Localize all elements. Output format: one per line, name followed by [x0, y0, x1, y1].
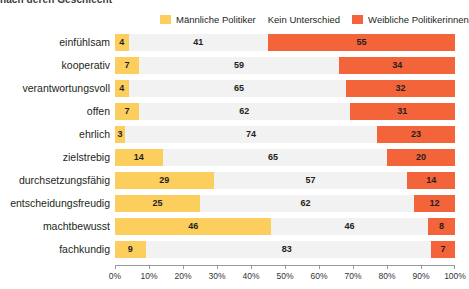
category-label: verantwortungsvoll	[22, 77, 115, 100]
bar-value-label: 9	[128, 245, 133, 254]
bar-segment-weibliche-politikerinnen: 8	[428, 218, 455, 235]
chart-legend: Männliche Politiker Kein Unterschied Wei…	[160, 13, 469, 26]
bar-value-label: 31	[397, 107, 407, 116]
bar-segment-maennliche-politiker: 25	[115, 195, 200, 212]
category-label: entscheidungsfreudig	[10, 192, 115, 215]
axis-tick	[149, 265, 150, 269]
axis-tick-label: 20%	[174, 271, 191, 281]
bar-value-label: 65	[268, 153, 278, 162]
bar-segment-kein-unterschied: 41	[129, 34, 268, 51]
bar-segment-kein-unterschied: 83	[146, 241, 428, 258]
bar-value-label: 20	[416, 153, 426, 162]
category-label: zielstrebig	[63, 146, 115, 169]
bar-value-label: 29	[159, 176, 169, 185]
bar-track: 46468	[115, 218, 455, 235]
chart-row: ehrlich37423	[0, 123, 467, 146]
page-title: nach deren Geschlecht	[0, 0, 220, 4]
bar-value-label: 41	[193, 38, 203, 47]
chart-plot-area: einfühlsam44155kooperativ75934verantwort…	[0, 31, 467, 265]
bar-value-label: 34	[392, 61, 402, 70]
bar-segment-weibliche-politikerinnen: 32	[346, 80, 455, 97]
bar-segment-kein-unterschied: 46	[271, 218, 427, 235]
bar-track: 37423	[115, 126, 455, 143]
bar-value-label: 7	[441, 245, 446, 254]
bar-segment-kein-unterschied: 57	[214, 172, 408, 189]
bar-track: 256212	[115, 195, 455, 212]
chart-row: offen76231	[0, 100, 467, 123]
category-label: einfühlsam	[59, 31, 115, 54]
bar-segment-kein-unterschied: 59	[139, 57, 340, 74]
bar-value-label: 7	[124, 61, 129, 70]
bar-segment-maennliche-politiker: 4	[115, 80, 129, 97]
axis-tick	[285, 265, 286, 269]
bar-segment-kein-unterschied: 62	[200, 195, 411, 212]
axis-tick-label: 90%	[412, 271, 429, 281]
bar-segment-kein-unterschied: 65	[163, 149, 384, 166]
bar-segment-maennliche-politiker: 3	[115, 126, 125, 143]
bar-value-label: 14	[134, 153, 144, 162]
legend-item-kein-unterschied: Kein Unterschied	[268, 13, 340, 26]
axis-tick-label: 30%	[208, 271, 225, 281]
bar-segment-kein-unterschied: 62	[139, 103, 350, 120]
chart-row: verantwortungsvoll46532	[0, 77, 467, 100]
axis-tick-label: 70%	[344, 271, 361, 281]
bar-track: 75934	[115, 57, 455, 74]
axis-tick	[115, 265, 116, 269]
bar-segment-maennliche-politiker: 29	[115, 172, 214, 189]
bar-value-label: 74	[246, 130, 256, 139]
legend-item-weibliche-politikerinnen: Weibliche Politikerinnen	[352, 13, 469, 26]
axis-tick	[217, 265, 218, 269]
axis-tick	[251, 265, 252, 269]
axis-tick	[387, 265, 388, 269]
bar-segment-maennliche-politiker: 4	[115, 34, 129, 51]
chart-row: fachkundig9837	[0, 238, 467, 261]
bar-value-label: 46	[345, 222, 355, 231]
bar-segment-maennliche-politiker: 46	[115, 218, 271, 235]
bar-track: 9837	[115, 241, 455, 258]
axis-tick	[353, 265, 354, 269]
bar-value-label: 12	[430, 199, 440, 208]
chart-row: machtbewusst46468	[0, 215, 467, 238]
bar-value-label: 23	[411, 130, 421, 139]
axis-tick	[183, 265, 184, 269]
category-label: kooperativ	[62, 54, 115, 77]
legend-swatch-icon	[352, 15, 363, 24]
bar-segment-weibliche-politikerinnen: 12	[414, 195, 455, 212]
axis-tick	[421, 265, 422, 269]
bar-value-label: 7	[124, 107, 129, 116]
axis-tick-label: 40%	[242, 271, 259, 281]
bar-track: 146520	[115, 149, 455, 166]
legend-item-maennliche-politiker: Männliche Politiker	[160, 13, 256, 26]
bar-value-label: 32	[396, 84, 406, 93]
chart-row: zielstrebig146520	[0, 146, 467, 169]
bar-value-label: 55	[356, 38, 366, 47]
bar-segment-maennliche-politiker: 7	[115, 57, 139, 74]
chart-row: entscheidungsfreudig256212	[0, 192, 467, 215]
bar-segment-weibliche-politikerinnen: 23	[377, 126, 455, 143]
legend-item-label: Weibliche Politikerinnen	[368, 15, 469, 25]
legend-item-label: Männliche Politiker	[176, 15, 256, 25]
axis-tick-label: 10%	[140, 271, 157, 281]
category-label: machtbewusst	[43, 215, 115, 238]
bar-value-label: 8	[439, 222, 444, 231]
bar-value-label: 62	[300, 199, 310, 208]
axis-tick-label: 100%	[444, 271, 466, 281]
axis-tick	[454, 265, 455, 269]
axis-tick-label: 80%	[378, 271, 395, 281]
chart-row: durchsetzungsfähig295714	[0, 169, 467, 192]
bar-value-label: 4	[119, 84, 124, 93]
bar-segment-maennliche-politiker: 14	[115, 149, 163, 166]
bar-value-label: 46	[188, 222, 198, 231]
bar-value-label: 3	[118, 130, 123, 139]
axis-tick-label: 0%	[109, 271, 121, 281]
bar-segment-weibliche-politikerinnen: 55	[268, 34, 455, 51]
category-label: offen	[87, 100, 115, 123]
bar-segment-kein-unterschied: 65	[129, 80, 350, 97]
bar-segment-weibliche-politikerinnen: 31	[350, 103, 455, 120]
x-axis: 0%10%20%30%40%50%60%70%80%90%100%	[115, 265, 455, 289]
bar-track: 44155	[115, 34, 455, 51]
category-label: fachkundig	[59, 238, 115, 261]
bar-track: 46532	[115, 80, 455, 97]
bar-value-label: 25	[152, 199, 162, 208]
bar-track: 295714	[115, 172, 455, 189]
